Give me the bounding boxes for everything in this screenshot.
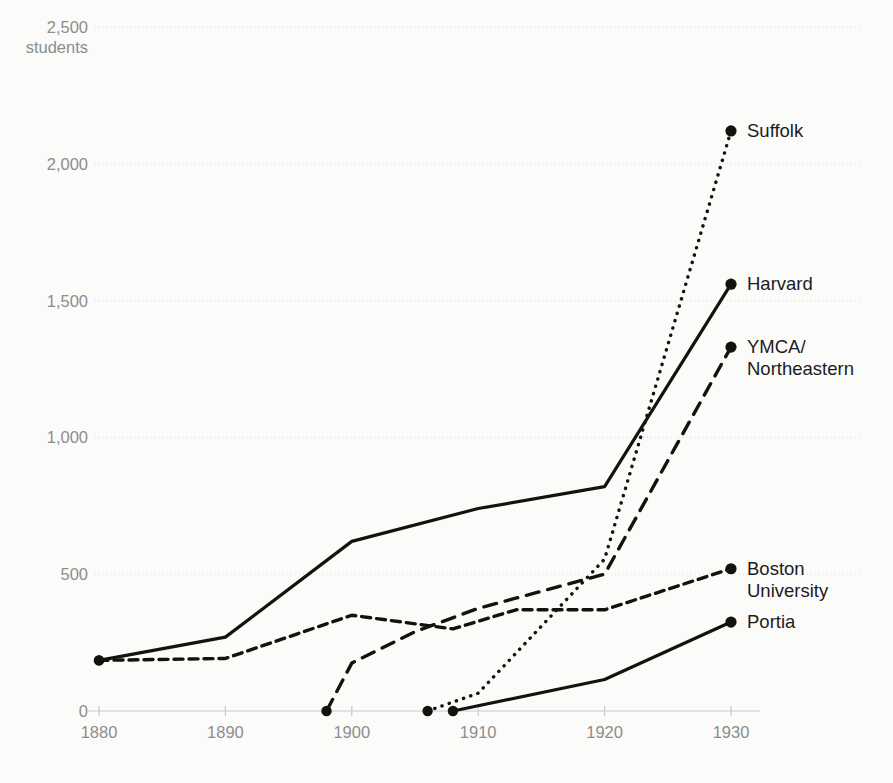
series-start-dot [94,655,104,665]
y-axis-tick-label: 0 [79,702,88,720]
chart-container: 05001,0001,5002,0002,500students 1880189… [0,0,893,783]
series-label-harvard: Harvard [747,273,813,294]
x-axis-tick-labels: 188018901900191019201930 [81,723,750,741]
y-axis-tick-label: 2,500 [47,18,88,36]
series-label-boston-university-line2: University [747,580,829,601]
x-axis-tick-label: 1930 [713,723,750,741]
y-axis-tick-label: 500 [60,565,88,583]
series-label-boston-university: Boston [747,558,805,579]
gridlines-group [95,27,860,574]
y-axis-tick-labels: 05001,0001,5002,0002,500students [26,18,88,720]
series-labels: SuffolkHarvardYMCA/NortheasternBostonUni… [747,120,854,632]
series-end-dot [725,563,736,574]
x-axis-tick-label: 1880 [81,723,118,741]
x-axis-tick-label: 1910 [460,723,497,741]
series-end-dot [725,616,736,627]
series-line-ymca-northeastern [327,347,731,711]
series-group [99,131,731,711]
x-axis-tick-label: 1900 [333,723,370,741]
y-axis-tick-label: 1,500 [47,292,88,310]
series-label-ymca-northeastern-line2: Northeastern [747,358,854,379]
y-axis-tick-label: 2,000 [47,155,88,173]
series-start-dot [422,706,432,716]
series-line-portia [453,622,731,711]
series-label-suffolk: Suffolk [747,120,804,141]
series-end-dot [725,342,736,353]
series-label-ymca-northeastern: YMCA/ [747,336,806,357]
series-endpoints [94,125,737,716]
series-start-dot [448,706,458,716]
series-end-dot [725,279,736,290]
line-chart: 05001,0001,5002,0002,500students 1880189… [0,0,893,783]
series-line-harvard [99,284,731,660]
y-axis-unit-label: students [26,38,88,56]
series-line-boston-university [99,569,731,661]
series-start-dot [321,706,331,716]
series-end-dot [725,125,736,136]
x-axis-tick-label: 1920 [586,723,623,741]
x-axis-tick-label: 1890 [207,723,244,741]
y-axis-tick-label: 1,000 [47,428,88,446]
series-label-portia: Portia [747,611,796,632]
